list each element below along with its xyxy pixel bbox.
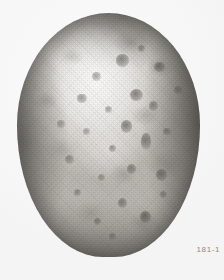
tuber-eye-spot	[98, 174, 105, 181]
tuber-eye-spot	[116, 54, 129, 66]
tuber-eye-spot	[138, 45, 145, 52]
tuber-eye-spot	[174, 86, 181, 93]
left-edge-shadow	[17, 13, 200, 257]
tuber-eye-spot	[74, 189, 81, 196]
tuber-eye-spot	[77, 94, 86, 104]
right-edge-shadow	[17, 13, 200, 257]
tuber-eye-spot	[160, 191, 167, 198]
specimen-photograph: 181-1	[0, 0, 224, 280]
tuber-eye-spot	[127, 164, 136, 174]
tuber-eye-spot	[130, 89, 143, 101]
tuber-eye-spot	[149, 101, 158, 111]
tuber-eye-spot	[154, 62, 165, 72]
tuber-eye-spot	[57, 120, 64, 127]
tuber-eye-spot	[109, 145, 116, 152]
tuber-eye-spot	[94, 218, 101, 225]
tuber-eye-spot	[156, 169, 167, 181]
skin-texture-grain	[17, 13, 200, 257]
skin-mottling	[17, 13, 200, 257]
figure-caption: 181-1	[197, 245, 220, 254]
potato-tuber	[17, 13, 200, 257]
bottom-edge-shadow	[17, 13, 200, 257]
tuber-eye-spot	[141, 133, 150, 150]
tuber-eye-spot	[105, 106, 112, 113]
tuber-eye-spot	[83, 128, 90, 135]
skin-texture-grain-2	[17, 13, 200, 257]
tuber-eye-spot	[118, 198, 127, 208]
secondary-highlight	[17, 13, 200, 257]
tuber-eye-spot	[140, 211, 151, 223]
tuber-eye-spot	[121, 120, 132, 132]
tuber-eye-spot	[109, 233, 116, 240]
tuber-eye-spot	[92, 72, 101, 82]
tuber-eye-spot	[163, 128, 170, 135]
tuber-eye-spot	[65, 155, 74, 165]
specular-highlight	[17, 13, 200, 257]
top-edge-shadow	[17, 13, 200, 257]
